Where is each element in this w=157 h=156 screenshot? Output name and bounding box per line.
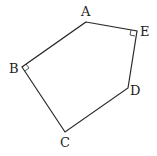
pentagon-shape (22, 22, 137, 132)
vertex-label-c: C (60, 135, 70, 150)
vertex-label-d: D (130, 83, 140, 98)
pentagon-diagram: A E D C B (0, 0, 157, 156)
vertex-label-a: A (80, 4, 91, 19)
vertex-label-b: B (9, 61, 19, 76)
vertex-label-e: E (140, 24, 150, 39)
diagram-canvas: A E D C B (0, 0, 157, 156)
